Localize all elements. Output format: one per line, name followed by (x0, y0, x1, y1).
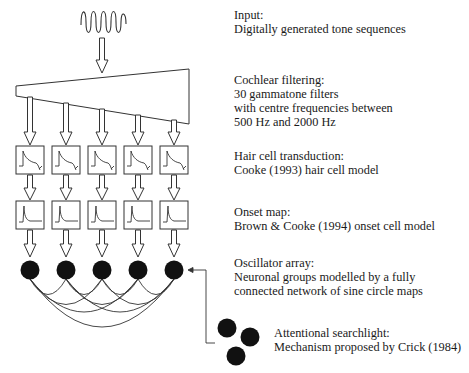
attention-label: Attentional searchlight: Mechanism propo… (274, 326, 461, 354)
onset-cell-box (160, 201, 188, 229)
pipeline-diagram (0, 0, 469, 373)
onset-map-row (16, 201, 188, 229)
input-desc: Digitally generated tone sequences (234, 22, 406, 36)
hair-cell-box (88, 146, 116, 174)
input-label: Input: Digitally generated tone sequence… (234, 8, 406, 36)
hair-cell-row (16, 146, 188, 174)
oscillator-node (93, 261, 112, 280)
onset-to-oscillator-arrows (24, 230, 180, 257)
hair-cell-box (16, 146, 44, 174)
haircell-desc: Cooke (1993) hair cell model (234, 163, 379, 177)
input-heading: Input: (234, 8, 406, 22)
onset-desc: Brown & Cooke (1994) onset cell model (234, 219, 435, 233)
attention-feedback-arrow (188, 268, 215, 344)
cochlear-label: Cochlear filtering: 30 gammatone filters… (234, 73, 393, 129)
onset-heading: Onset map: (234, 205, 435, 219)
attention-desc: Mechanism proposed by Crick (1984) (274, 340, 461, 354)
attention-heading: Attentional searchlight: (274, 326, 461, 340)
attentional-searchlight (218, 319, 260, 366)
cochlear-desc-3: 500 Hz and 2000 Hz (234, 115, 393, 129)
cochlear-desc-1: 30 gammatone filters (234, 87, 393, 101)
hair-cell-box (124, 146, 152, 174)
cochlear-heading: Cochlear filtering: (234, 73, 393, 87)
haircell-heading: Hair cell transduction: (234, 149, 379, 163)
onset-cell-box (88, 201, 116, 229)
oscillator-node (129, 261, 148, 280)
hair-cell-box (52, 146, 80, 174)
oscillator-node (165, 261, 184, 280)
onset-cell-box (16, 201, 44, 229)
oscillator-desc-2: connected network of sine circle maps (234, 284, 423, 298)
oscillator-array (21, 261, 184, 280)
oscillator-heading: Oscillator array: (234, 256, 423, 270)
oscillator-connections (30, 279, 174, 327)
oscillator-node (21, 261, 40, 280)
oscillator-desc-1: Neuronal groups modelled by a fully (234, 270, 423, 284)
onset-label: Onset map: Brown & Cooke (1994) onset ce… (234, 205, 435, 233)
cochlear-desc-2: with centre frequencies between (234, 101, 393, 115)
haircell-to-onset-arrows (24, 175, 180, 200)
haircell-label: Hair cell transduction: Cooke (1993) hai… (234, 149, 379, 177)
onset-cell-box (124, 201, 152, 229)
oscillator-node (57, 261, 76, 280)
input-arrow-icon (96, 38, 108, 73)
oscillator-label: Oscillator array: Neuronal groups modell… (234, 256, 423, 298)
hair-cell-box (160, 146, 188, 174)
sine-wave-icon (81, 12, 126, 33)
onset-cell-box (52, 201, 80, 229)
